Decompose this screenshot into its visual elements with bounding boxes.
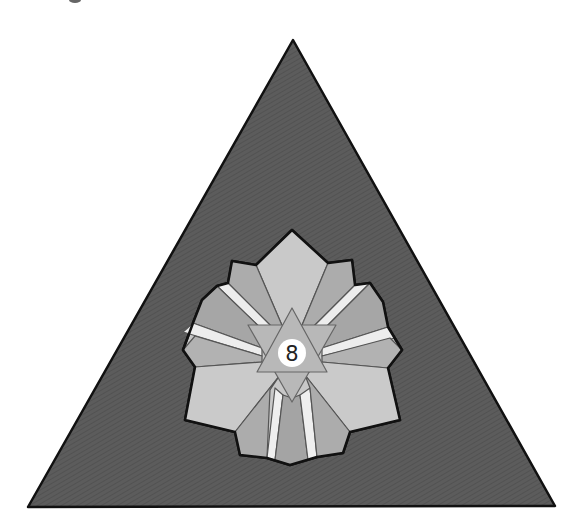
corner-artifact [69,0,81,3]
emblem-figure: 8 [0,0,579,527]
center-number-label: 8 [285,342,298,366]
